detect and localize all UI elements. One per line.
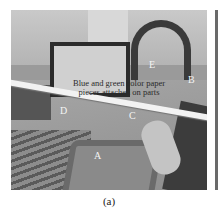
label-a: A [94, 150, 101, 161]
label-b: B [188, 74, 195, 85]
label-d: D [60, 105, 67, 116]
assembly-photo: Blue and green color paper pieces attach… [11, 10, 207, 190]
adjacent-photo-edge [215, 10, 218, 190]
label-e: E [149, 59, 155, 70]
figure-caption: (a) [0, 195, 218, 207]
label-c: C [129, 110, 136, 121]
annotation-text: Blue and green color paper pieces attach… [69, 79, 169, 97]
